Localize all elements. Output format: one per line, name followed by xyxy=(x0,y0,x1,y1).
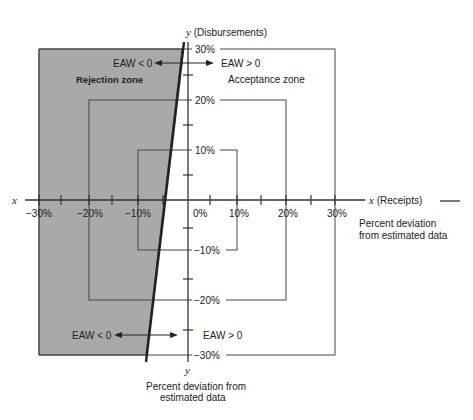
svg-text:−10%: −10% xyxy=(194,245,220,256)
svg-text:20%: 20% xyxy=(278,208,298,219)
y-tick-labels: 30% 20% 10% −10% −20% −30% xyxy=(194,44,220,361)
acceptance-zone-label: Acceptance zone xyxy=(228,74,305,85)
svg-text:−30%: −30% xyxy=(26,208,52,219)
y-caption-line1: Percent deviation from xyxy=(146,381,246,392)
eaw-positive-top: EAW > 0 xyxy=(221,58,261,69)
svg-text:30%: 30% xyxy=(195,44,215,55)
eaw-negative-bottom: EAW < 0 xyxy=(72,330,112,341)
eaw-positive-bottom: EAW > 0 xyxy=(203,330,243,341)
x-axis-label-right: x (Receipts) xyxy=(368,194,422,206)
deviation-diagram: x x (Receipts) y (Disbursements) y −30% … xyxy=(0,0,473,420)
eaw-negative-top: EAW < 0 xyxy=(113,58,153,69)
x-caption-line1: Percent deviation xyxy=(359,218,436,229)
svg-text:−20%: −20% xyxy=(77,208,103,219)
svg-text:10%: 10% xyxy=(229,208,249,219)
x-caption-line2: from estimated data xyxy=(359,230,448,241)
svg-text:−30%: −30% xyxy=(194,350,220,361)
rejection-zone-label: Rejection zone xyxy=(76,74,143,85)
svg-text:20%: 20% xyxy=(195,95,215,106)
svg-text:30%: 30% xyxy=(327,208,347,219)
y-axis-label-bottom: y xyxy=(184,364,190,376)
svg-text:−20%: −20% xyxy=(194,295,220,306)
y-axis-label-top: y (Disbursements) xyxy=(185,26,267,38)
y-caption-line2: estimated data xyxy=(160,392,226,403)
x-axis-label-left: x xyxy=(11,194,17,206)
svg-text:10%: 10% xyxy=(195,145,215,156)
svg-text:−10%: −10% xyxy=(125,208,151,219)
svg-text:0%: 0% xyxy=(193,208,208,219)
